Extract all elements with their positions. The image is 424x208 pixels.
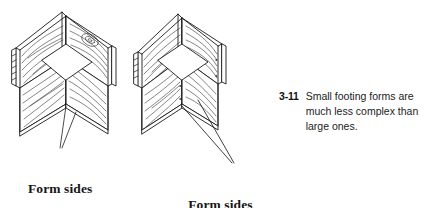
figure-caption: 3-11 Small footing forms are much less c… — [279, 89, 421, 135]
figure-caption-text: Small footing forms are much less comple… — [306, 89, 419, 135]
label-form-sides: Form sides — [28, 151, 92, 208]
figure-number: 3-11 — [279, 89, 299, 104]
caption-line-2: much less complex than — [306, 104, 419, 119]
caption-line-1: Small footing forms are — [306, 89, 419, 104]
caption-line-3: large ones. — [306, 119, 419, 134]
label-form-sides-nailed: Form sides nailed in position — [170, 167, 271, 208]
footing-form-nailed-sides — [134, 14, 234, 163]
label-form-sides-nailed-line-1: Form sides — [170, 197, 271, 208]
label-form-sides-line-1: Form sides — [28, 181, 92, 196]
footing-form-loose-sides — [12, 12, 116, 148]
